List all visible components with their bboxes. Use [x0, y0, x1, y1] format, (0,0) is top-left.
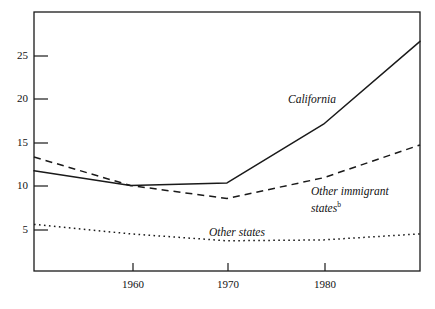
y-tick-label-15: 15: [2, 136, 28, 148]
series-label-footnote-marker: b: [337, 200, 341, 209]
x-tick-label-1980: 1980: [305, 278, 345, 290]
series-label-california: California: [288, 93, 336, 106]
y-axis-ticks: [34, 56, 48, 230]
x-tick-label-1970: 1970: [208, 278, 248, 290]
x-axis-ticks: [133, 263, 325, 271]
y-tick-label-10: 10: [2, 179, 28, 191]
y-tick-label-5: 5: [2, 223, 28, 235]
series-label-other-immigrant-line2: states: [311, 202, 337, 214]
y-tick-label-25: 25: [2, 49, 28, 61]
series-label-other-states: Other states: [209, 226, 265, 239]
x-tick-label-1960: 1960: [113, 278, 153, 290]
series-label-other-immigrant-line1: Other immigrant: [311, 185, 389, 197]
line-chart-plot: [0, 0, 435, 309]
y-tick-label-20: 20: [2, 92, 28, 104]
figure-container: 25 20 15 10 5 1960 1970 1980 California …: [0, 0, 435, 309]
series-label-other-immigrant-states: Other immigrant statesb: [311, 185, 389, 215]
